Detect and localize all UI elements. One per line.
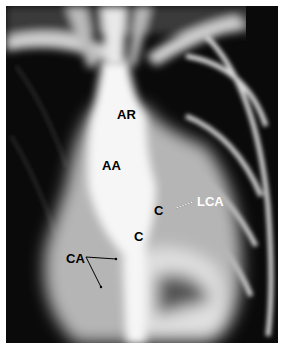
label-c-upper: C <box>154 204 163 217</box>
label-lca: LCA <box>197 195 224 208</box>
label-rca: CA <box>66 252 85 265</box>
radiograph-image: AR AA C C LCA CA <box>6 6 278 343</box>
label-c-lower: C <box>134 230 143 243</box>
radiograph-shapes <box>6 6 278 343</box>
label-ar: AR <box>117 108 136 121</box>
label-aa: AA <box>102 159 121 172</box>
